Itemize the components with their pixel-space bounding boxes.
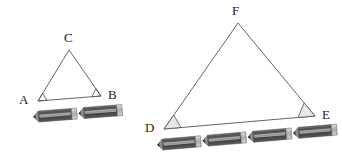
pencil-2: [78, 104, 123, 118]
pencil-graphite-tip: [247, 135, 250, 140]
vertex-label-C: C: [64, 30, 73, 45]
pencil-3: [247, 128, 292, 143]
pencil-ferrule: [117, 104, 123, 115]
figure-canvas: A B C D E F: [0, 0, 342, 157]
pencil-ferrule: [240, 132, 246, 143]
angle-marker-B: [92, 89, 101, 97]
pencil-ferrule: [195, 136, 201, 147]
vertex-label-A: A: [19, 92, 29, 107]
pencil-ferrule: [331, 124, 337, 135]
pencil-row-under-AB: [33, 104, 123, 122]
triangle-DEF-group: D E F: [145, 3, 330, 135]
angle-marker-D: [164, 115, 181, 129]
pencil-ferrule: [71, 108, 77, 119]
geometry-figure: A B C D E F: [0, 0, 342, 157]
pencil-graphite-tip: [293, 131, 296, 136]
vertex-label-B: B: [108, 87, 117, 102]
pencil-graphite-tip: [33, 115, 36, 120]
triangle-ABC-outline: [38, 50, 101, 101]
pencil-graphite-tip: [78, 111, 81, 116]
pencil-graphite-tip: [202, 139, 205, 144]
vertex-label-F: F: [232, 3, 239, 18]
pencil-graphite-tip: [157, 142, 160, 147]
pencil-4: [293, 124, 338, 139]
vertex-label-E: E: [322, 107, 330, 122]
pencil-ferrule: [286, 128, 292, 139]
pencil-row-under-DE: [157, 124, 338, 150]
pencil-1: [157, 136, 202, 151]
triangle-DEF-outline: [164, 23, 315, 129]
triangle-ABC-group: A B C: [19, 30, 117, 107]
pencil-2: [202, 132, 247, 147]
vertex-label-D: D: [145, 120, 154, 135]
pencil-1: [33, 108, 78, 122]
